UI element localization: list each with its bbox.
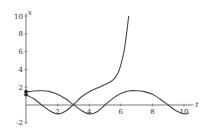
y-tick-label: 8 — [19, 30, 23, 38]
x-tick-label: 6 — [119, 108, 124, 116]
chart-svg: 246810108642-2 x t — [0, 0, 205, 138]
x-tick-label: 2 — [55, 108, 59, 116]
y-axis-label: x — [28, 9, 32, 17]
y-tick-label: -2 — [16, 119, 23, 127]
chart: 246810108642-2 x t — [0, 0, 205, 138]
x-tick-label: 10 — [180, 108, 189, 116]
x-tick-label: 4 — [87, 108, 92, 116]
y-tick-label: 10 — [14, 13, 23, 21]
series-line-periodic-solution — [26, 91, 189, 114]
initial-point-marker — [24, 93, 28, 97]
initial-point-marker — [24, 90, 28, 94]
x-tick-label: 8 — [150, 108, 154, 116]
plot-area — [24, 16, 189, 114]
x-axis-label: t — [195, 101, 198, 109]
series-line-blowup-solution — [26, 16, 129, 114]
axes: 246810108642-2 — [14, 13, 193, 128]
y-tick-label: 2 — [19, 84, 23, 92]
y-tick-label: 6 — [19, 48, 24, 56]
y-tick-label: 4 — [19, 66, 24, 74]
